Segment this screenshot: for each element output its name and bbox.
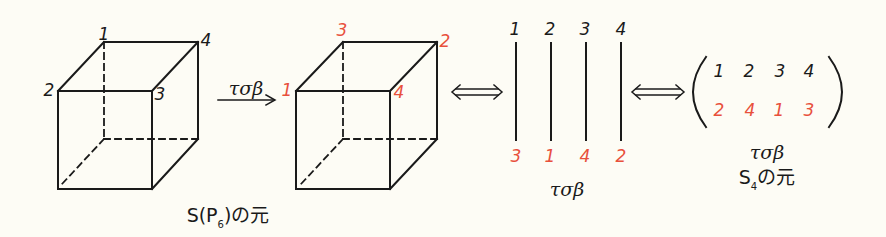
strand-top-3: 3 — [580, 21, 591, 38]
cube-transformed-vertex-top-left: 3 — [337, 22, 348, 39]
cube-transformed-vertex-front-left: 1 — [282, 82, 293, 99]
matrix-bottom-2: 4 — [745, 102, 756, 119]
matrix-bottom-4: 3 — [804, 102, 815, 119]
left-paren — [693, 57, 706, 127]
cube-original-vertex-4: 4 — [201, 32, 212, 49]
matrix-top-1: 1 — [714, 63, 725, 80]
strand-diagram-caption: τσβ — [550, 181, 584, 198]
transform-arrow-label: τσβ — [229, 80, 263, 97]
cube-original-vertex-3: 3 — [155, 86, 166, 103]
matrix-bottom-3: 1 — [774, 102, 785, 119]
equivalence-arrow-1 — [452, 85, 502, 99]
strand-top-1: 1 — [510, 21, 521, 38]
cube-original-vertex-2: 2 — [44, 82, 55, 99]
strand-bottom-3: 4 — [580, 148, 591, 165]
matrix-caption-greek: τσβ — [750, 144, 784, 161]
strands — [516, 43, 621, 140]
strand-top-2: 2 — [545, 21, 556, 38]
cube-original-vertex-1: 1 — [99, 26, 110, 43]
cube-original-caption: S(P6)の元 — [187, 200, 270, 230]
cube-original-edges — [58, 42, 198, 189]
cube-transformed-vertex-top-right: 2 — [440, 33, 451, 50]
matrix-top-3: 3 — [775, 63, 786, 80]
equivalence-arrow-2 — [632, 85, 684, 99]
matrix-caption-group: S4の元 — [739, 162, 795, 192]
matrix-top-2: 2 — [744, 63, 755, 80]
strand-bottom-2: 1 — [545, 148, 556, 165]
strand-bottom-4: 2 — [616, 148, 627, 165]
strand-bottom-1: 3 — [511, 148, 522, 165]
matrix-bottom-1: 2 — [714, 102, 725, 119]
strand-top-4: 4 — [616, 21, 627, 38]
right-paren — [829, 57, 842, 127]
cube-transformed-vertex-front-right: 4 — [394, 84, 405, 101]
matrix-top-4: 4 — [804, 63, 815, 80]
cube-transformed-edges — [296, 42, 437, 189]
